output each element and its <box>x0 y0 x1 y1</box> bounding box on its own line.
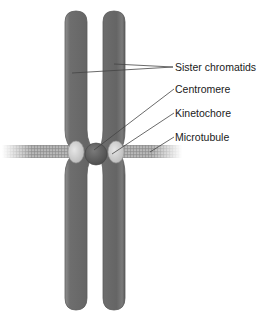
label-microtubule: Microtubule <box>175 131 229 143</box>
label-sister-chromatids: Sister chromatids <box>175 61 256 73</box>
chromosome-diagram: Sister chromatids Centromere Kinetochore… <box>0 0 262 319</box>
left-kinetochore <box>68 141 84 163</box>
label-kinetochore: Kinetochore <box>175 107 231 119</box>
diagram-graphic <box>0 0 262 319</box>
label-centromere: Centromere <box>175 83 230 95</box>
centromere <box>85 143 107 165</box>
right-kinetochore <box>108 141 124 163</box>
